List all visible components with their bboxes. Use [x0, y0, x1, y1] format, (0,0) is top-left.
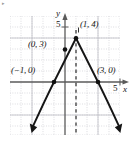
- y-axis-label: y: [56, 9, 60, 18]
- label-x-intercept-right: (3, 0): [97, 66, 115, 75]
- point-x-intercept-left: [52, 80, 57, 85]
- label-y-intercept: (0, 3): [28, 40, 46, 49]
- axes: [10, 19, 126, 135]
- point-vertex: [74, 36, 79, 41]
- graph-figure: ▸: [0, 0, 129, 143]
- x-axis-label: x: [123, 85, 127, 94]
- point-y-intercept: [63, 47, 68, 52]
- label-vertex: (1, 4): [80, 20, 98, 29]
- point-x-intercept-right: [96, 80, 101, 85]
- y-tick-label-5: 5: [56, 20, 61, 29]
- y-axis-arrowhead: [62, 13, 67, 20]
- x-tick-label-5: 5: [113, 84, 118, 93]
- label-x-intercept-left: (−1, 0): [11, 66, 35, 75]
